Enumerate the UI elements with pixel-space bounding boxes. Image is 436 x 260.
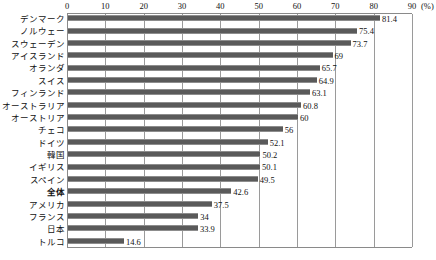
x-tick-label-40: 40 bbox=[216, 1, 225, 11]
bar bbox=[68, 188, 231, 194]
bar-chart: 0102030405060708090(%) デンマーク81.4ノルウェー75.… bbox=[0, 0, 436, 260]
x-tick-label-0: 0 bbox=[65, 1, 69, 11]
bar-row: オーストリア60 bbox=[0, 112, 436, 124]
category-label: ノルウェー bbox=[1, 25, 65, 37]
bar bbox=[68, 89, 310, 95]
bar-value-label: 73.7 bbox=[350, 38, 368, 50]
bar-row: ノルウェー75.4 bbox=[0, 25, 436, 37]
bar-row: 全体42.6 bbox=[0, 186, 436, 198]
x-tick-label-50: 50 bbox=[254, 1, 263, 11]
x-tick-label-60: 60 bbox=[293, 1, 302, 11]
bar-value-label: 60 bbox=[297, 112, 309, 124]
bar-row: スイス64.9 bbox=[0, 75, 436, 87]
category-label: ドイツ bbox=[1, 137, 65, 149]
bar bbox=[68, 201, 212, 207]
bar-row: アイスランド69 bbox=[0, 50, 436, 62]
bar-value-label: 81.4 bbox=[379, 13, 397, 25]
bar-value-label: 37.5 bbox=[211, 199, 229, 211]
category-label: フィンランド bbox=[1, 87, 65, 99]
x-tick-label-10: 10 bbox=[101, 1, 110, 11]
unit-label: (%) bbox=[421, 1, 434, 11]
category-label: イギリス bbox=[1, 161, 65, 173]
bar bbox=[68, 225, 198, 231]
category-label: トルコ bbox=[1, 236, 65, 248]
category-label: 日本 bbox=[1, 223, 65, 235]
bar-value-label: 49.5 bbox=[257, 174, 275, 186]
x-tick-label-20: 20 bbox=[139, 1, 148, 11]
bar-value-label: 50.2 bbox=[259, 149, 277, 161]
bar-row: スペイン49.5 bbox=[0, 174, 436, 186]
category-label: チェコ bbox=[1, 124, 65, 136]
category-label: アメリカ bbox=[1, 199, 65, 211]
category-label: オーストリア bbox=[1, 112, 65, 124]
category-label: スウェーデン bbox=[1, 38, 65, 50]
bar-value-label: 50.1 bbox=[259, 161, 277, 173]
bar-value-label: 75.4 bbox=[356, 25, 374, 37]
bar bbox=[68, 176, 258, 182]
bar-value-label: 33.9 bbox=[197, 223, 215, 235]
bar bbox=[68, 238, 124, 244]
category-label: 韓国 bbox=[1, 149, 65, 161]
bar-value-label: 69 bbox=[332, 50, 344, 62]
bar-row: フィンランド63.1 bbox=[0, 87, 436, 99]
bar bbox=[68, 114, 298, 120]
bar-value-label: 34 bbox=[197, 211, 209, 223]
bar-row: デンマーク81.4 bbox=[0, 13, 436, 25]
bar-row: チェコ56 bbox=[0, 124, 436, 136]
category-label: スペイン bbox=[1, 174, 65, 186]
category-label: フランス bbox=[1, 211, 65, 223]
bar-row: フランス34 bbox=[0, 211, 436, 223]
bar bbox=[68, 139, 268, 145]
bar-row: 日本33.9 bbox=[0, 223, 436, 235]
bar bbox=[68, 28, 357, 34]
bar-row: 韓国50.2 bbox=[0, 149, 436, 161]
bar bbox=[68, 15, 380, 21]
bar-value-label: 60.8 bbox=[300, 100, 318, 112]
bar-value-label: 64.9 bbox=[316, 75, 334, 87]
bar bbox=[68, 213, 198, 219]
bar-rows: デンマーク81.4ノルウェー75.4スウェーデン73.7アイスランド69オランダ… bbox=[0, 13, 436, 248]
category-label: オランダ bbox=[1, 62, 65, 74]
bar-row: オランダ65.7 bbox=[0, 62, 436, 74]
bar-value-label: 52.1 bbox=[267, 137, 285, 149]
category-label: デンマーク bbox=[1, 13, 65, 25]
bar-row: オーストラリア60.8 bbox=[0, 100, 436, 112]
x-tick-label-80: 80 bbox=[369, 1, 378, 11]
bar-row: トルコ14.6 bbox=[0, 236, 436, 248]
bar bbox=[68, 126, 283, 132]
x-tick-label-90: 90 bbox=[408, 1, 417, 11]
bar-row: ドイツ52.1 bbox=[0, 137, 436, 149]
bar-value-label: 63.1 bbox=[309, 87, 327, 99]
category-label: スイス bbox=[1, 75, 65, 87]
bar bbox=[68, 77, 317, 83]
bar bbox=[68, 164, 260, 170]
bar-value-label: 56 bbox=[282, 124, 294, 136]
bar-row: スウェーデン73.7 bbox=[0, 38, 436, 50]
bar bbox=[68, 65, 320, 71]
bar bbox=[68, 40, 351, 46]
bar-row: イギリス50.1 bbox=[0, 161, 436, 173]
bar-value-label: 65.7 bbox=[319, 62, 337, 74]
bar bbox=[68, 151, 260, 157]
x-tick-label-70: 70 bbox=[331, 1, 340, 11]
bar-value-label: 42.6 bbox=[230, 186, 248, 198]
category-label: アイスランド bbox=[1, 50, 65, 62]
category-label: 全体 bbox=[1, 186, 65, 198]
category-label: オーストラリア bbox=[1, 100, 65, 112]
bar bbox=[68, 52, 333, 58]
x-axis-tick-row: 0102030405060708090(%) bbox=[0, 0, 436, 14]
bar-value-label: 14.6 bbox=[123, 236, 141, 248]
bar-row: アメリカ37.5 bbox=[0, 199, 436, 211]
x-tick-label-30: 30 bbox=[178, 1, 187, 11]
bar bbox=[68, 102, 301, 108]
